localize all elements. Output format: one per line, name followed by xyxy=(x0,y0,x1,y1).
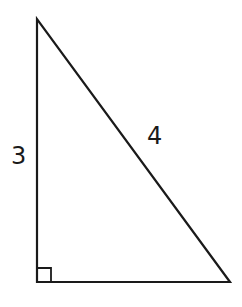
hypotenuse-label: 4 xyxy=(147,122,162,150)
right-angle-marker xyxy=(37,268,51,282)
triangle-shape xyxy=(37,19,230,282)
triangle-diagram: 3 4 xyxy=(0,0,242,307)
triangle-figure: 3 4 xyxy=(0,0,242,307)
vertical-side-label: 3 xyxy=(11,142,26,170)
